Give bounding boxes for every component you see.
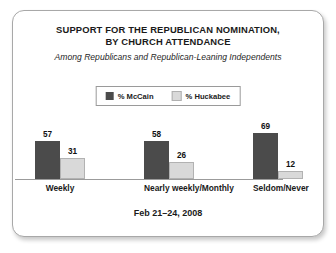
bar-wrap: 58 [144, 115, 169, 179]
bar-value-label: 69 [261, 122, 270, 132]
legend-label-mccain: % McCain [118, 92, 154, 101]
bar [35, 141, 60, 179]
bar-wrap: 69 [253, 115, 278, 179]
x-axis-line [15, 179, 283, 180]
chart-subtitle: Among Republicans and Republican-Leaning… [13, 52, 323, 63]
chart-legend: % McCain % Huckabee [96, 86, 241, 106]
page-title-line-1: SUPPORT FOR THE REPUBLICAN NOMINATION, [13, 24, 323, 36]
bar [253, 133, 278, 179]
bar-wrap: 57 [35, 115, 60, 179]
bar [144, 141, 169, 179]
bar [169, 162, 194, 179]
category-label: Weekly [35, 183, 85, 193]
bar-wrap: 26 [169, 115, 194, 179]
category-label: Nearly weekly/Monthly [144, 183, 194, 193]
legend-label-huckabee: % Huckabee [186, 92, 231, 101]
bar-value-label: 26 [177, 151, 186, 161]
bar-group: 5826 [144, 115, 194, 179]
category-label: Seldom/Never [253, 183, 303, 193]
bar-value-label: 31 [68, 147, 77, 157]
chart-footnote: Feb 21–24, 2008 [13, 208, 323, 218]
legend-item-huckabee: % Huckabee [172, 91, 231, 101]
legend-swatch-huckabee [172, 91, 182, 101]
bar-value-label: 58 [152, 130, 161, 140]
bar [60, 158, 85, 179]
chart-card: SUPPORT FOR THE REPUBLICAN NOMINATION, B… [12, 10, 324, 237]
bar-value-label: 57 [43, 130, 52, 140]
bar-groups: 573158266912 [35, 115, 303, 179]
bar-wrap: 12 [278, 115, 303, 179]
bar-wrap: 31 [60, 115, 85, 179]
bar-group: 6912 [253, 115, 303, 179]
bar-group: 5731 [35, 115, 85, 179]
page-title-line-2: BY CHURCH ATTENDANCE [13, 36, 323, 48]
bar-value-label: 12 [286, 160, 295, 170]
chart-plot-area: 573158266912 [35, 115, 303, 179]
x-axis-category-labels: WeeklyNearly weekly/MonthlySeldom/Never [35, 183, 303, 193]
bar [278, 171, 303, 179]
legend-swatch-mccain [106, 92, 114, 100]
legend-item-mccain: % McCain [106, 92, 154, 101]
chart-title-block: SUPPORT FOR THE REPUBLICAN NOMINATION, B… [13, 24, 323, 63]
